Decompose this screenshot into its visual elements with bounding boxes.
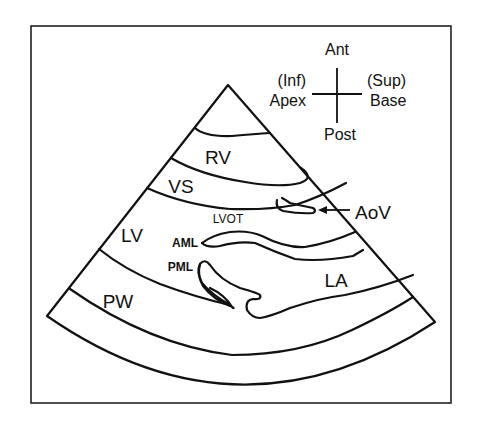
pml-outline [200,261,413,318]
orientation-cross-icon [312,68,362,123]
sector-outline [47,85,435,385]
label-lvot: LVOT [213,212,244,226]
label-ant: Ant [325,41,350,58]
echo-sector-diagram: Ant Post (Inf) Apex (Sup) Base RV VS LV … [0,0,481,423]
label-pml: PML [168,260,193,274]
label-aml: AML [172,236,198,250]
label-base: Base [370,92,407,109]
rv-anterior-wall [195,128,270,136]
label-apex: Apex [270,92,306,109]
label-rv: RV [205,147,231,168]
label-lv: LV [121,225,143,246]
label-post: Post [324,126,357,143]
label-aov: AoV [355,202,391,223]
label-pw: PW [103,291,134,312]
label-vs: VS [168,176,193,197]
label-sup: (Sup) [367,72,406,89]
label-la: LA [324,270,348,291]
label-inf: (Inf) [278,72,306,89]
